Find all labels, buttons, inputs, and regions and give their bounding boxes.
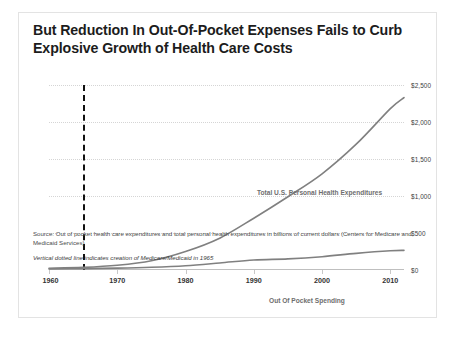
slide-canvas: But Reduction In Out-Of-Pocket Expenses … xyxy=(18,12,437,318)
source-note: Source: Out of pocket health care expend… xyxy=(33,229,428,247)
oop-series-label: Out Of Pocket Spending xyxy=(269,296,345,305)
x-axis-tick-label: 2010 xyxy=(382,276,398,285)
page-title: But Reduction In Out-Of-Pocket Expenses … xyxy=(33,21,425,57)
x-axis-tick-label: 2000 xyxy=(314,276,330,285)
x-axis-label-row: 196019701980199020002010 xyxy=(49,270,404,288)
y-axis-tick-label: $1,500 xyxy=(411,156,431,163)
total-series-label-line-1: Total U.S. Personal Health Expenditures xyxy=(257,189,382,196)
total-series-label: Total U.S. Personal Health Expenditures xyxy=(257,188,377,197)
footnote: Vertical dotted line indicates creation … xyxy=(33,253,428,262)
y-axis-tick-label: $1,000 xyxy=(411,193,431,200)
title-line-1: But Reduction In Out-Of-Pocket Expenses … xyxy=(33,22,402,38)
y-axis-tick-label: $2,500 xyxy=(411,82,431,89)
x-axis-tick-label: 1970 xyxy=(109,276,125,285)
y-axis-tick-label: $2,000 xyxy=(411,119,431,126)
title-line-2: Explosive Growth of Health Care Costs xyxy=(33,39,425,57)
x-axis-tick-label: 1990 xyxy=(246,276,262,285)
y-axis-tick-label: $0 xyxy=(411,267,418,274)
x-axis-tick-label: 1960 xyxy=(43,276,59,285)
x-axis-tick-label: 1980 xyxy=(178,276,194,285)
